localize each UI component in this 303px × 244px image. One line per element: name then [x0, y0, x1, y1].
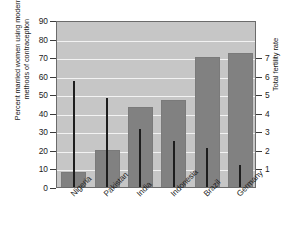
y-tick-left	[50, 77, 56, 78]
y-tick-right	[256, 77, 262, 78]
y-tick-right	[256, 132, 262, 133]
y-tick-label-right-2: 2	[265, 146, 279, 156]
y-tick-left	[50, 132, 56, 133]
y-tick-label-left-10: 10	[28, 164, 48, 174]
gridline	[57, 133, 255, 134]
y-tick-left	[50, 114, 56, 115]
gridline	[57, 41, 255, 42]
y-tick-left	[50, 95, 56, 96]
y-tick-label-left-20: 20	[28, 146, 48, 156]
y-tick-left	[50, 169, 56, 170]
fertility-marker-nigeria	[73, 81, 75, 187]
y-tick-label-left-80: 80	[28, 35, 48, 45]
fertility-marker-india	[139, 129, 141, 187]
y-tick-left	[50, 21, 56, 22]
plot-area	[56, 21, 256, 188]
fertility-contraception-chart: Percent married women using modern metho…	[0, 0, 303, 244]
y-tick-label-right-7: 7	[265, 53, 279, 63]
y-tick-label-left-30: 30	[28, 127, 48, 137]
gridline	[57, 78, 255, 79]
y-tick-right	[256, 58, 262, 59]
y-tick-left	[50, 188, 56, 189]
y-tick-label-right-3: 3	[265, 127, 279, 137]
y-axis-right-title: Total fertility rate	[271, 5, 280, 125]
y-tick-right	[256, 114, 262, 115]
y-tick-label-left-70: 70	[28, 53, 48, 63]
y-tick-left	[50, 40, 56, 41]
y-tick-label-right-4: 4	[265, 109, 279, 119]
y-tick-left	[50, 58, 56, 59]
gridline	[57, 59, 255, 60]
y-tick-label-right-5: 5	[265, 90, 279, 100]
y-tick-label-right-6: 6	[265, 72, 279, 82]
fertility-marker-indonesia	[173, 141, 175, 187]
gridline	[57, 96, 255, 97]
gridline	[57, 152, 255, 153]
y-tick-label-left-90: 90	[28, 16, 48, 26]
y-tick-label-left-0: 0	[28, 183, 48, 193]
y-tick-right	[256, 151, 262, 152]
y-tick-left	[50, 151, 56, 152]
y-tick-label-right-1: 1	[265, 164, 279, 174]
y-tick-label-left-60: 60	[28, 72, 48, 82]
fertility-marker-pakistan	[106, 98, 108, 187]
y-tick-label-left-50: 50	[28, 90, 48, 100]
fertility-marker-germany	[239, 165, 241, 187]
y-tick-right	[256, 95, 262, 96]
y-tick-label-left-40: 40	[28, 109, 48, 119]
fertility-marker-brazil	[206, 148, 208, 187]
gridline	[57, 170, 255, 171]
gridline	[57, 115, 255, 116]
